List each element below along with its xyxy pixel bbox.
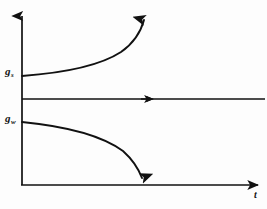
lower-trajectory-curve	[22, 122, 142, 178]
lower-equilibrium-label: gw	[5, 113, 16, 126]
lower-equilibrium-subscript: w	[11, 118, 16, 126]
upper-equilibrium-subscript: s	[11, 71, 14, 79]
upper-trajectory-curve	[22, 20, 144, 76]
lower-equilibrium-symbol: g	[5, 112, 11, 124]
upper-equilibrium-symbol: g	[5, 65, 11, 77]
phase-diagram-canvas	[0, 0, 267, 209]
x-axis-label: t	[254, 190, 257, 200]
upper-equilibrium-label: gs	[5, 66, 14, 79]
phase-diagram-figure: gs gw t	[0, 0, 267, 209]
